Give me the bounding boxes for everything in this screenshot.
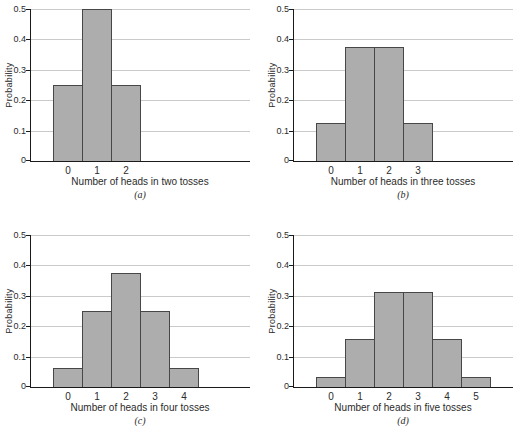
gridline: [31, 265, 250, 266]
x-tick-label: 0: [53, 391, 83, 402]
x-tick-label: 4: [169, 391, 199, 402]
plot-area: 00.10.20.30.40.50123: [293, 9, 513, 162]
y-tick-mark: [289, 296, 293, 297]
y-tick-label: 0.1: [2, 352, 26, 363]
y-tick-label: 0.3: [265, 65, 289, 76]
y-tick-label: 0.4: [265, 34, 289, 45]
bar-4: [432, 339, 462, 387]
y-tick-label: 0.5: [2, 4, 26, 15]
x-tick-label: 2: [111, 165, 141, 176]
y-tick-label: 0.3: [2, 65, 26, 76]
bar-3: [403, 292, 433, 387]
y-tick-mark: [26, 296, 30, 297]
x-tick-label: 0: [53, 165, 83, 176]
x-tick-label: 2: [374, 165, 404, 176]
y-tick-label: 0.5: [265, 4, 289, 15]
bar-0: [53, 85, 83, 161]
y-tick-mark: [26, 235, 30, 236]
y-tick-mark: [26, 357, 30, 358]
figure-binomial-histograms: Probability 00.10.20.30.40.5012 Number o…: [0, 0, 526, 426]
y-tick-label: 0.1: [265, 126, 289, 137]
y-tick-label: 0.2: [2, 321, 26, 332]
panel-caption: (c): [30, 415, 250, 426]
panel-caption: (b): [293, 189, 513, 201]
y-tick-label: 0.3: [265, 291, 289, 302]
y-tick-label: 0.5: [2, 230, 26, 241]
bar-2: [374, 47, 404, 161]
x-axis-title: Number of heads in four tosses: [30, 402, 250, 414]
y-tick-mark: [289, 357, 293, 358]
x-tick-label: 5: [461, 391, 491, 402]
x-tick-label: 1: [82, 165, 112, 176]
y-tick-label: 0.5: [265, 230, 289, 241]
y-tick-mark: [289, 70, 293, 71]
bar-5: [461, 377, 491, 387]
y-tick-label: 0.2: [2, 95, 26, 106]
y-tick-mark: [26, 100, 30, 101]
gridline: [31, 9, 250, 10]
x-tick-label: 2: [111, 391, 141, 402]
gridline: [294, 39, 513, 40]
y-tick-label: 0.1: [2, 126, 26, 137]
y-tick-label: 0.3: [2, 291, 26, 302]
bar-1: [345, 47, 375, 161]
bar-2: [374, 292, 404, 387]
bar-0: [316, 377, 346, 387]
y-tick-label: 0.2: [265, 95, 289, 106]
y-tick-mark: [26, 39, 30, 40]
y-tick-mark: [26, 9, 30, 10]
chart-panel-d: Probability 00.10.20.30.40.5012345 Numbe…: [263, 213, 526, 426]
bar-2: [111, 85, 141, 161]
x-tick-label: 3: [403, 165, 433, 176]
bar-3: [403, 123, 433, 161]
y-tick-mark: [289, 160, 293, 161]
panel-caption: (d): [293, 415, 513, 426]
panel-caption: (a): [30, 189, 250, 201]
y-tick-mark: [289, 386, 293, 387]
gridline: [31, 39, 250, 40]
plot-area: 00.10.20.30.40.5012345: [293, 235, 513, 388]
y-tick-mark: [26, 386, 30, 387]
gridline: [294, 235, 513, 236]
chart-panel-a: Probability 00.10.20.30.40.5012 Number o…: [0, 0, 263, 213]
bar-0: [53, 368, 83, 387]
y-tick-mark: [26, 265, 30, 266]
y-tick-mark: [26, 326, 30, 327]
y-tick-label: 0.4: [265, 260, 289, 271]
y-tick-mark: [289, 9, 293, 10]
y-tick-label: 0: [265, 381, 289, 392]
bar-4: [169, 368, 199, 387]
bar-1: [82, 9, 112, 161]
chart-panel-b: Probability 00.10.20.30.40.50123 Number …: [263, 0, 526, 213]
bar-2: [111, 273, 141, 387]
y-tick-mark: [289, 131, 293, 132]
y-tick-label: 0: [2, 155, 26, 166]
y-tick-label: 0.4: [2, 260, 26, 271]
y-tick-label: 0.4: [2, 34, 26, 45]
x-axis-title: Number of heads in five tosses: [293, 402, 513, 414]
x-tick-label: 4: [432, 391, 462, 402]
y-tick-label: 0: [2, 381, 26, 392]
x-tick-label: 0: [316, 165, 346, 176]
y-tick-label: 0.2: [265, 321, 289, 332]
bar-1: [345, 339, 375, 387]
plot-area: 00.10.20.30.40.5012: [30, 9, 250, 162]
y-tick-mark: [289, 100, 293, 101]
x-tick-label: 1: [345, 165, 375, 176]
y-tick-mark: [26, 131, 30, 132]
x-tick-label: 3: [140, 391, 170, 402]
x-tick-label: 1: [345, 391, 375, 402]
gridline: [294, 265, 513, 266]
gridline: [294, 9, 513, 10]
bar-0: [316, 123, 346, 161]
bar-3: [140, 311, 170, 387]
x-axis-title: Number of heads in two tosses: [30, 176, 250, 188]
y-tick-mark: [289, 39, 293, 40]
x-tick-label: 0: [316, 391, 346, 402]
x-axis-title: Number of heads in three tosses: [293, 176, 513, 188]
y-tick-mark: [26, 160, 30, 161]
y-tick-label: 0: [265, 155, 289, 166]
y-tick-mark: [289, 326, 293, 327]
x-tick-label: 2: [374, 391, 404, 402]
gridline: [31, 235, 250, 236]
